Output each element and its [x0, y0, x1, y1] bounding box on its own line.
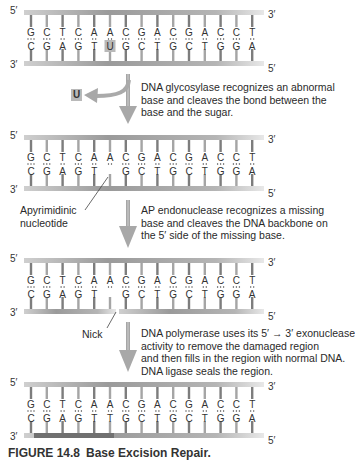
- bottom-base: G: [43, 166, 51, 177]
- step-2-description: AP endonuclease recognizes a missingbase…: [141, 204, 328, 242]
- top-base: C: [170, 27, 177, 38]
- bottom-base: G: [169, 289, 177, 300]
- dna-panel-2: 5′3′3′5′GCCGTACGATACGGCATCGGCATCGCGTA: [10, 130, 276, 199]
- svg-text:5′: 5′: [268, 63, 276, 74]
- figure-caption: FIGURE 14.8Base Excision Repair.: [8, 446, 211, 460]
- bottom-base: G: [233, 413, 241, 424]
- bottom-base: G: [75, 289, 83, 300]
- svg-text:3′: 3′: [10, 431, 18, 442]
- top-base: C: [75, 275, 82, 286]
- bottom-base: C: [27, 41, 34, 52]
- bottom-base: T: [154, 166, 160, 177]
- top-base: A: [154, 152, 161, 163]
- nick-pointer: [107, 312, 116, 328]
- bottom-base: G: [233, 289, 241, 300]
- top-base: T: [249, 275, 255, 286]
- top-base: A: [201, 27, 208, 38]
- top-base: G: [138, 152, 146, 163]
- bottom-base: T: [202, 413, 208, 424]
- bottom-base: G: [217, 41, 225, 52]
- bottom-backbone-left: [24, 309, 116, 314]
- svg-text:5′: 5′: [10, 253, 18, 264]
- bottom-base: A: [59, 166, 66, 177]
- figure-title: Base Excision Repair.: [86, 446, 211, 460]
- top-base: A: [107, 27, 114, 38]
- top-base: C: [122, 27, 129, 38]
- top-base: C: [233, 399, 240, 410]
- dna-panel-3: 5′3′3′5′GCCGTACGATACGGCATCGGCATCGCGTA: [10, 253, 276, 322]
- bottom-base: A: [249, 289, 256, 300]
- top-base: G: [27, 399, 35, 410]
- top-base: C: [122, 275, 129, 286]
- arrow-step-1: [84, 74, 137, 124]
- top-base: G: [185, 399, 193, 410]
- bottom-base: G: [122, 41, 130, 52]
- top-base: C: [122, 152, 129, 163]
- bottom-base: C: [185, 413, 192, 424]
- top-base: C: [233, 275, 240, 286]
- top-base: A: [201, 152, 208, 163]
- svg-text:3′: 3′: [268, 134, 276, 145]
- top-base: A: [91, 27, 98, 38]
- top-base: C: [75, 399, 82, 410]
- step-1-description: DNA glycosylase recognizes an abnormalba…: [141, 81, 335, 119]
- top-base: T: [60, 275, 66, 286]
- top-base: G: [138, 275, 146, 286]
- bottom-base: C: [138, 289, 145, 300]
- bottom-base: C: [138, 413, 145, 424]
- bottom-base: G: [75, 41, 83, 52]
- top-base: C: [122, 399, 129, 410]
- dna-panel-4: 5′3′3′5′GCCGTACGATATCGGCATCGGCATCGCGTA: [10, 377, 276, 446]
- top-base: C: [170, 399, 177, 410]
- bottom-base: T: [91, 41, 97, 52]
- top-base: C: [233, 27, 240, 38]
- top-base: A: [154, 27, 161, 38]
- top-base: G: [185, 275, 193, 286]
- top-base: C: [43, 399, 50, 410]
- svg-text:5′: 5′: [10, 130, 18, 141]
- repaired-region: [34, 433, 114, 438]
- top-base: C: [75, 27, 82, 38]
- figure-number: FIGURE 14.8: [8, 446, 80, 460]
- top-base: G: [185, 27, 193, 38]
- bottom-base: G: [43, 41, 51, 52]
- bottom-base: C: [138, 166, 145, 177]
- top-base: A: [107, 275, 114, 286]
- top-base: G: [138, 399, 146, 410]
- top-backbone: [24, 135, 264, 140]
- bottom-base: G: [233, 41, 241, 52]
- arrow-step-2: [119, 200, 137, 248]
- bottom-base: A: [59, 41, 66, 52]
- bottom-base: T: [154, 41, 160, 52]
- bottom-base: A: [249, 413, 256, 424]
- bottom-base: C: [185, 289, 192, 300]
- top-backbone: [24, 10, 264, 15]
- top-base: A: [91, 152, 98, 163]
- bottom-base: T: [202, 41, 208, 52]
- svg-text:5′: 5′: [10, 377, 18, 388]
- bottom-base: G: [122, 289, 130, 300]
- removed-uracil-badge: U: [71, 89, 82, 101]
- nick-label: Nick: [82, 328, 102, 341]
- svg-text:3′: 3′: [10, 184, 18, 195]
- bottom-base: G: [75, 166, 83, 177]
- bottom-base: U: [106, 41, 113, 52]
- top-base: T: [60, 399, 66, 410]
- top-base: C: [43, 152, 50, 163]
- top-base: G: [27, 152, 35, 163]
- bottom-base: G: [169, 413, 177, 424]
- top-base: A: [201, 275, 208, 286]
- top-base: A: [154, 275, 161, 286]
- bottom-base: G: [233, 166, 241, 177]
- bottom-base: T: [202, 166, 208, 177]
- top-base: T: [249, 399, 255, 410]
- top-base: A: [91, 399, 98, 410]
- top-base: G: [27, 27, 35, 38]
- step-3-description: DNA polymerase uses its 5′ → 3′ exonucle…: [141, 327, 355, 377]
- top-base: A: [154, 399, 161, 410]
- bottom-backbone: [24, 61, 264, 66]
- top-base: G: [138, 27, 146, 38]
- top-base: A: [91, 275, 98, 286]
- bottom-base: C: [27, 289, 34, 300]
- bottom-base: C: [185, 41, 192, 52]
